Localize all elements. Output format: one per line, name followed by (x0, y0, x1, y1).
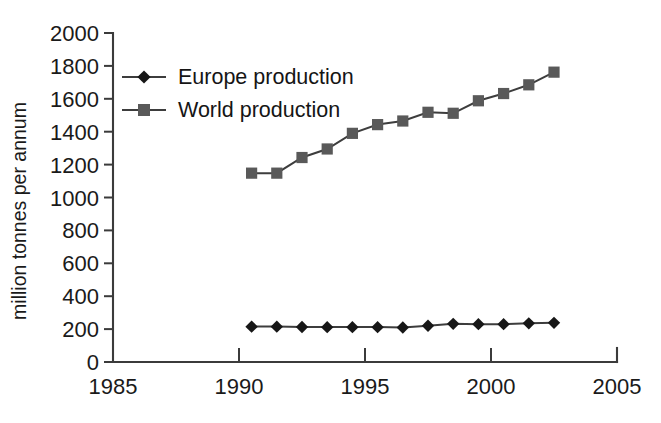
x-tick-label: 1985 (89, 374, 138, 399)
x-tick-label: 1995 (341, 374, 390, 399)
data-point-marker (372, 119, 383, 130)
series-europe-production (245, 317, 560, 334)
legend-marker-square-icon (138, 104, 150, 116)
data-point-marker (347, 128, 358, 139)
data-point-marker (497, 318, 509, 330)
legend-label: Europe production (178, 65, 354, 89)
data-point-marker (296, 152, 307, 163)
y-tick-label: 1200 (50, 153, 99, 178)
x-tick-label: 2000 (467, 374, 516, 399)
data-point-marker (473, 95, 484, 106)
legend-entry: World production (122, 98, 340, 122)
y-tick-label: 2000 (50, 21, 99, 46)
y-tick-label: 0 (87, 350, 99, 375)
x-axis-tick-labels: 19851990199520002005 (89, 374, 642, 399)
y-tick-label: 600 (62, 251, 99, 276)
y-tick-label: 400 (62, 284, 99, 309)
y-tick-label: 800 (62, 218, 99, 243)
chart-container: million tonnes per annum 020040060080010… (0, 0, 661, 423)
y-axis-title: million tonnes per annum (8, 102, 30, 320)
data-point-marker (246, 168, 257, 179)
data-point-marker (321, 321, 333, 333)
x-axis-ticks (113, 348, 491, 362)
data-point-marker (245, 320, 257, 332)
x-tick-label: 2005 (593, 374, 642, 399)
data-point-marker (448, 108, 459, 119)
data-point-marker (397, 115, 408, 126)
y-axis-tick-labels: 0200400600800100012001400160018002000 (50, 21, 99, 375)
y-tick-label: 1400 (50, 120, 99, 145)
chart-legend: Europe productionWorld production (122, 65, 354, 122)
y-tick-label: 1600 (50, 87, 99, 112)
y-tick-label: 1000 (50, 186, 99, 211)
data-point-marker (296, 321, 308, 333)
line-chart: million tonnes per annum 020040060080010… (0, 0, 661, 423)
data-point-marker (422, 320, 434, 332)
data-point-marker (548, 67, 559, 78)
y-tick-label: 1800 (50, 54, 99, 79)
x-tick-label: 1990 (215, 374, 264, 399)
legend-marker-diamond-icon (137, 70, 150, 83)
legend-entry: Europe production (122, 65, 354, 89)
data-point-marker (498, 88, 509, 99)
data-point-marker (271, 320, 283, 332)
data-point-marker (346, 321, 358, 333)
data-point-marker (447, 318, 459, 330)
y-axis-ticks (104, 33, 113, 362)
data-point-marker (371, 321, 383, 333)
data-point-marker (472, 318, 484, 330)
data-point-marker (397, 321, 409, 333)
data-point-marker (523, 79, 534, 90)
data-point-marker (548, 317, 560, 329)
data-point-marker (322, 143, 333, 154)
legend-label: World production (178, 98, 340, 122)
data-point-marker (422, 107, 433, 118)
y-tick-label: 200 (62, 317, 99, 342)
data-point-marker (523, 317, 535, 329)
data-point-marker (271, 168, 282, 179)
